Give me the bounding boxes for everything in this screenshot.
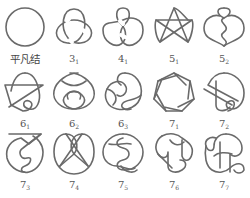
knot-table: 平凡结 31 41 51 52: [0, 0, 250, 198]
knot-label: 77: [199, 179, 249, 194]
knot-7-7-icon: [202, 132, 246, 176]
knot-label: 平凡结: [0, 53, 50, 65]
knot-cell-6-3: 63: [98, 67, 148, 129]
knot-label: 52: [199, 53, 249, 68]
cinquefoil-knot-icon: [152, 6, 196, 50]
knot-7-4-icon: [52, 132, 96, 176]
knot-cell-6-2: 62: [49, 67, 99, 129]
knot-cell-5-2: 52: [199, 2, 249, 64]
knot-cell-7-2: 72: [199, 67, 249, 129]
knot-cell-5-1: 51: [149, 2, 199, 64]
knot-cell-6-1: 61: [0, 67, 50, 129]
knot-label: 41: [98, 53, 148, 68]
knot-7-2-icon: [202, 71, 246, 115]
trefoil-knot-icon: [52, 6, 96, 50]
knot-label: 73: [0, 179, 50, 194]
knot-6-2-icon: [52, 71, 96, 115]
knot-label: 74: [49, 179, 99, 194]
knot-cell-4-1: 41: [98, 2, 148, 64]
knot-7-6-icon: [152, 132, 196, 176]
figure-eight-knot-icon: [101, 6, 145, 50]
knot-label: 75: [98, 179, 148, 194]
knot-cell-7-4: 74: [49, 128, 99, 190]
knot-cell-7-7: 77: [199, 128, 249, 190]
septafoil-knot-icon: [152, 71, 196, 115]
knot-cell-unknot: 平凡结: [0, 2, 50, 64]
knot-cell-7-1: 71: [149, 67, 199, 129]
stevedore-knot-icon: [3, 71, 47, 115]
knot-cell-7-5: 75: [98, 128, 148, 190]
knot-cell-3-1: 31: [49, 2, 99, 64]
knot-6-3-icon: [101, 71, 145, 115]
knot-7-5-icon: [101, 132, 145, 176]
knot-label: 76: [149, 179, 199, 194]
unknot-diagram-icon: [3, 6, 47, 50]
knot-label: 51: [149, 53, 199, 68]
knot-7-3-icon: [3, 132, 47, 176]
knot-cell-7-6: 76: [149, 128, 199, 190]
knot-label: 31: [49, 53, 99, 68]
knot-cell-7-3: 73: [0, 128, 50, 190]
three-twist-knot-icon: [202, 6, 246, 50]
